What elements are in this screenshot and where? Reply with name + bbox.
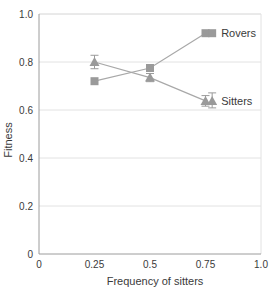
series-label-sitters: Sitters bbox=[221, 95, 253, 107]
y-tick-label-4: 0.8 bbox=[19, 57, 33, 68]
y-tick-labels-group: 00.20.40.60.81.0 bbox=[19, 9, 33, 260]
x-tick-labels-group: 00.250.50.751.0 bbox=[36, 259, 268, 270]
y-tick-label-2: 0.4 bbox=[19, 153, 33, 164]
series-label-rovers: Rovers bbox=[221, 27, 256, 39]
chart-canvas: 00.20.40.60.81.0 00.250.50.751.0 RoversS… bbox=[0, 0, 276, 288]
y-tick-label-5: 1.0 bbox=[19, 9, 33, 20]
chart-figure: 00.20.40.60.81.0 00.250.50.751.0 RoversS… bbox=[0, 0, 276, 288]
gridlines-group bbox=[39, 14, 261, 206]
x-tick-label-0: 0 bbox=[36, 259, 42, 270]
y-axis-title: Fitness bbox=[2, 122, 14, 158]
y-tick-label-3: 0.6 bbox=[19, 105, 33, 116]
x-tick-label-3: 0.75 bbox=[196, 259, 216, 270]
x-axis-title: Frequency of sitters bbox=[107, 275, 204, 287]
legend-marker-rovers bbox=[208, 29, 216, 37]
marker-square-rovers-0 bbox=[91, 77, 99, 85]
y-tick-label-1: 0.2 bbox=[19, 201, 33, 212]
series-group bbox=[90, 29, 211, 106]
y-tick-label-0: 0 bbox=[27, 249, 33, 260]
axes-group bbox=[39, 14, 261, 254]
x-tick-label-1: 0.25 bbox=[85, 259, 105, 270]
x-tick-label-4: 1.0 bbox=[254, 259, 268, 270]
x-tick-label-2: 0.5 bbox=[143, 259, 157, 270]
series-labels-group: RoversSitters bbox=[207, 27, 256, 108]
marker-square-rovers-1 bbox=[146, 64, 154, 72]
